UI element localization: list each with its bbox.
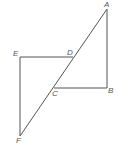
label-c: C: [52, 89, 58, 98]
label-a: A: [103, 0, 109, 9]
geometry-figure: A B C D E F: [0, 0, 118, 143]
label-e: E: [13, 49, 19, 58]
label-f: F: [16, 136, 22, 143]
segment-af: [20, 9, 107, 136]
label-d: D: [67, 48, 73, 57]
label-b: B: [108, 86, 114, 95]
